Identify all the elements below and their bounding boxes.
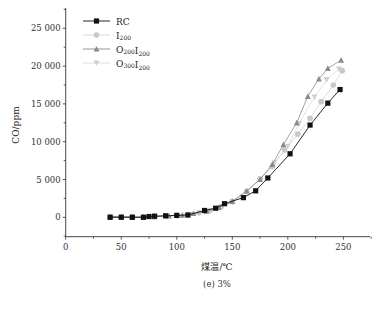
series-line [110,71,342,217]
data-point [146,214,151,219]
x-tick-label: 0 [63,242,68,252]
figure-caption: (e) 3% [203,279,231,289]
series-line [110,90,340,218]
x-axis-title: 煤温/℃ [201,261,232,272]
series-rc [108,87,343,220]
legend-item-o200i200: O200I200 [83,45,150,57]
data-point [152,214,157,219]
data-point [282,147,288,153]
series-o200i200 [107,57,344,220]
y-tick-label: 20 000 [31,61,61,71]
series-i200 [107,68,345,220]
series-layer [107,57,345,220]
x-tick-label: 50 [116,242,127,252]
legend-item-rc: RC [83,17,130,27]
data-point [163,213,168,218]
data-point [307,122,312,127]
axes: 05010015020025005 00010 00015 00020 0002… [31,8,371,252]
series-o300i200 [107,67,342,221]
y-axis-title: CO/ppm [11,106,21,144]
y-tick-label: 25 000 [31,23,61,33]
data-point [295,131,301,137]
x-tick-label: 200 [280,242,296,252]
series-line [110,69,339,217]
data-point [339,68,345,74]
data-point [312,94,318,100]
legend-label: I200 [116,31,131,42]
y-tick-label: 15 000 [31,99,61,109]
y-tick-label: 0 [55,212,60,222]
data-point [185,212,190,217]
data-point [141,215,146,220]
legend: RCI200O200I200O300I200 [83,17,150,71]
data-point [325,65,331,71]
series-line [110,60,341,217]
y-tick-label: 10 000 [31,137,61,147]
legend-label: O300I200 [116,59,150,71]
x-tick-label: 150 [224,242,240,252]
legend-label: RC [116,17,130,27]
legend-marker-icon [94,32,100,38]
data-point [307,115,313,121]
x-tick-label: 100 [169,242,185,252]
data-point [305,93,311,99]
data-point [331,82,337,88]
legend-item-i200: I200 [83,31,131,42]
data-point [338,57,344,63]
data-point [213,206,218,211]
data-point [241,195,246,200]
data-point [202,208,207,213]
data-point [222,201,227,206]
data-point [325,101,330,106]
legend-item-o300i200: O300I200 [83,59,150,71]
y-tick-label: 5 000 [36,175,60,185]
data-point [130,215,135,220]
data-point [253,188,258,193]
legend-marker-icon [94,18,99,23]
x-tick-label: 250 [335,242,351,252]
data-point [174,213,179,218]
data-point [119,215,124,220]
data-point [287,151,292,156]
co-vs-coal-temperature-chart: 05010015020025005 00010 00015 00020 0002… [0,0,385,312]
data-point [318,99,324,105]
legend-label: O200I200 [116,45,150,57]
data-point [108,215,113,220]
data-point [337,87,342,92]
data-point [265,175,270,180]
